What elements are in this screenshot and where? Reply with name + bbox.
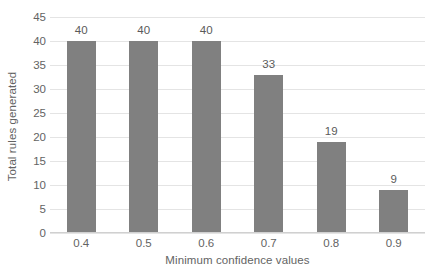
x-axis-line xyxy=(50,232,425,233)
y-axis-tick-label: 10 xyxy=(22,179,46,191)
bar-slot: 19 xyxy=(300,17,363,233)
bar[interactable] xyxy=(192,41,221,233)
y-axis-tick-label: 20 xyxy=(22,131,46,143)
bar-value-label: 9 xyxy=(363,173,426,186)
x-axis-tick-label: 0.6 xyxy=(175,236,238,250)
bar-slot: 9 xyxy=(363,17,426,233)
x-axis-tick-label: 0.5 xyxy=(113,236,176,250)
x-axis-tick-label: 0.8 xyxy=(300,236,363,250)
gridline xyxy=(50,233,425,234)
y-axis-tick-label: 45 xyxy=(22,11,46,23)
bar-value-label: 40 xyxy=(113,24,176,37)
bar-slot: 40 xyxy=(175,17,238,233)
y-axis-title: Total rules generated xyxy=(3,11,21,242)
bar[interactable] xyxy=(254,75,283,233)
x-axis-title: Minimum confidence values xyxy=(50,253,425,267)
x-axis-tick-label: 0.7 xyxy=(238,236,301,250)
y-axis-tick-label: 15 xyxy=(22,155,46,167)
y-axis-tick-label: 5 xyxy=(22,203,46,215)
y-axis-tick-label: 30 xyxy=(22,83,46,95)
y-axis-tick-label: 0 xyxy=(22,227,46,239)
bar-value-label: 40 xyxy=(50,24,113,37)
bar-value-label: 40 xyxy=(175,24,238,37)
y-axis-tick-label: 40 xyxy=(22,35,46,47)
bar[interactable] xyxy=(67,41,96,233)
x-axis-tick-label: 0.9 xyxy=(363,236,426,250)
bar-value-label: 19 xyxy=(300,125,363,138)
x-axis-tick-labels: 0.40.50.60.70.80.9 xyxy=(50,236,425,250)
x-axis-tick-label: 0.4 xyxy=(50,236,113,250)
y-axis-tick-label: 25 xyxy=(22,107,46,119)
plot-area: 40404033199 xyxy=(50,17,425,233)
bar[interactable] xyxy=(379,190,408,233)
bar-value-label: 33 xyxy=(238,58,301,71)
y-axis-tick-labels: 454035302520151050 xyxy=(22,17,46,233)
bar[interactable] xyxy=(317,142,346,233)
bar-series: 40404033199 xyxy=(50,17,425,233)
bar-slot: 40 xyxy=(113,17,176,233)
bar-chart: Total rules generated 454035302520151050… xyxy=(0,0,434,271)
bar-slot: 40 xyxy=(50,17,113,233)
y-axis-tick-label: 35 xyxy=(22,59,46,71)
bar-slot: 33 xyxy=(238,17,301,233)
bar[interactable] xyxy=(129,41,158,233)
